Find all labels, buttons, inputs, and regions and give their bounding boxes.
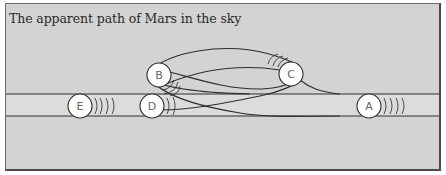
marker-b-label: B <box>155 69 163 82</box>
loop-inner-arc-1 <box>170 72 296 89</box>
marker-e-label: E <box>77 100 84 113</box>
marker-d-label: D <box>148 100 156 113</box>
marker-d: D <box>140 94 164 118</box>
marker-a-label: A <box>365 100 373 113</box>
marker-c-label: C <box>287 68 295 81</box>
loop-c-to-band <box>300 80 340 94</box>
marker-e: E <box>68 94 92 118</box>
marker-c: C <box>279 62 303 86</box>
loop-outer-top <box>150 49 300 70</box>
marker-a: A <box>357 94 381 118</box>
marker-b: B <box>147 63 171 87</box>
mars-path-diagram: E D B C A <box>0 0 446 175</box>
